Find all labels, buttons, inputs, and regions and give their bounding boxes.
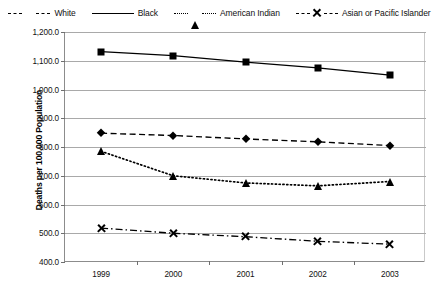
- legend-item-white[interactable]: White: [8, 8, 75, 19]
- y-axis-tick-label: 800.0: [39, 143, 59, 152]
- data-point[interactable]: [315, 139, 321, 145]
- series-lines: [65, 32, 426, 262]
- legend-item-american-indian[interactable]: American Indian: [174, 8, 280, 19]
- data-point[interactable]: [97, 224, 106, 233]
- x-axis-tick-label: 2003: [381, 270, 399, 279]
- x-axis-tick-label: 2002: [309, 270, 327, 279]
- y-axis-tick-label: 500.0: [39, 229, 59, 238]
- x-axis-tick-label: 1999: [92, 270, 110, 279]
- x-axis-tick-label: 2000: [164, 270, 182, 279]
- legend-label: Asian or Pacific Islander: [342, 9, 431, 18]
- chart-container: WhiteBlackAmerican IndianAsian or Pacifi…: [0, 0, 439, 301]
- data-point[interactable]: [169, 229, 178, 238]
- legend-label: Black: [138, 9, 158, 18]
- data-point[interactable]: [386, 72, 393, 79]
- legend-label: American Indian: [220, 9, 280, 18]
- data-point[interactable]: [385, 240, 394, 249]
- chart-legend: WhiteBlackAmerican IndianAsian or Pacifi…: [0, 0, 439, 26]
- data-point[interactable]: [170, 132, 176, 138]
- x-axis-tick-label: 2001: [237, 270, 255, 279]
- data-point[interactable]: [387, 142, 393, 148]
- y-axis-tick: [61, 262, 65, 263]
- data-point[interactable]: [314, 182, 322, 190]
- data-point[interactable]: [386, 178, 394, 186]
- legend-symbol-triangle-icon: [191, 4, 199, 22]
- y-axis-tick-label: 900.0: [39, 114, 59, 123]
- data-point[interactable]: [242, 136, 248, 142]
- y-axis-tick-label: 400.0: [39, 258, 59, 267]
- y-axis-tick-label: 1,100.0: [32, 56, 59, 65]
- data-point[interactable]: [98, 130, 104, 136]
- data-point[interactable]: [169, 172, 177, 180]
- data-point[interactable]: [242, 59, 249, 66]
- y-axis-tick-label: 600.0: [39, 200, 59, 209]
- y-axis-tick-label: 700.0: [39, 171, 59, 180]
- plot-area: 1,200.01,100.01,000.0900.0800.0700.0600.…: [64, 32, 425, 262]
- y-axis-tick-label: 1,200.0: [32, 28, 59, 37]
- data-point[interactable]: [242, 179, 250, 187]
- data-point[interactable]: [313, 237, 322, 246]
- data-point[interactable]: [97, 147, 105, 155]
- legend-marker-square-icon: [92, 8, 134, 19]
- data-point[interactable]: [241, 232, 250, 241]
- data-point[interactable]: [98, 48, 105, 55]
- legend-item-black[interactable]: Black: [92, 8, 158, 19]
- y-axis-tick-label: 1,000.0: [32, 85, 59, 94]
- legend-marker-x-icon: [296, 8, 338, 19]
- data-point[interactable]: [170, 52, 177, 59]
- legend-label: White: [54, 9, 75, 18]
- data-point[interactable]: [314, 64, 321, 71]
- legend-marker-triangle-icon: [174, 8, 216, 19]
- legend-item-asian-or-pacific-islander[interactable]: Asian or Pacific Islander: [296, 8, 431, 19]
- legend-marker-diamond-icon: [8, 8, 50, 19]
